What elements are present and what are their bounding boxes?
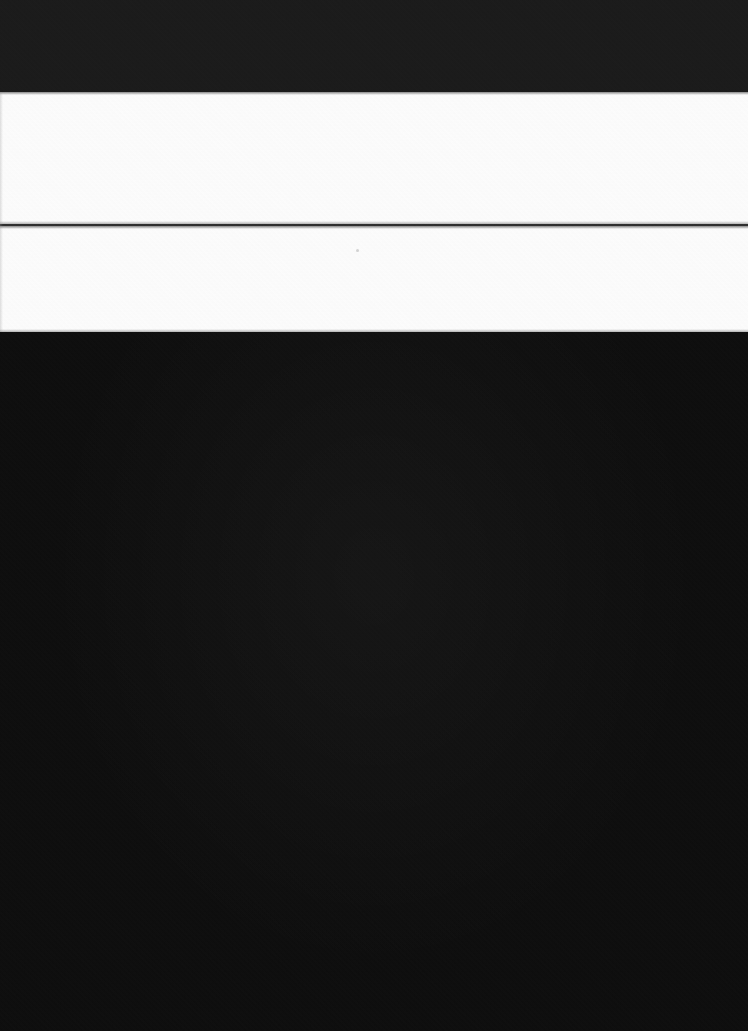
lower-white-panel bbox=[0, 226, 748, 332]
top-dark-band bbox=[0, 0, 748, 92]
upper-white-panel bbox=[0, 92, 748, 224]
screen-root bbox=[0, 0, 748, 1031]
main-dark-surface bbox=[0, 332, 748, 1031]
